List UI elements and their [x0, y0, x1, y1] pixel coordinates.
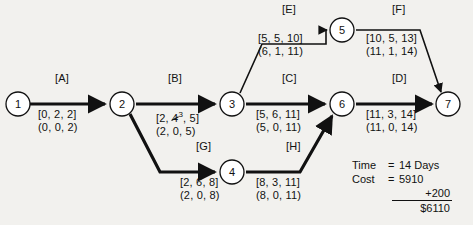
summary-total: $6110 — [392, 201, 452, 215]
activity-b-paren: (2, 0, 5) — [156, 125, 199, 138]
project-summary: Time = 14 Days Cost = 5910 +200 $6110 — [352, 158, 452, 215]
summary-time-row: Time = 14 Days — [352, 158, 452, 172]
activity-d-paren: (11, 0, 14) — [366, 121, 418, 134]
activity-g-paren: (2, 0, 8) — [180, 189, 220, 202]
node-4-label: 4 — [229, 166, 235, 178]
summary-cost-value: 5910 — [399, 172, 423, 186]
activity-h-label: [H] — [286, 140, 301, 152]
node-7-label: 7 — [445, 98, 451, 110]
activity-a-times: [0, 2, 2] (0, 0, 2) — [38, 108, 78, 134]
activity-e-label: [E] — [282, 3, 296, 15]
summary-time-value: 14 Days — [399, 158, 439, 172]
summary-cost-label: Cost — [352, 172, 388, 186]
activity-b-bracket-prefix: [2, — [156, 112, 172, 124]
node-2-label: 2 — [119, 98, 125, 110]
summary-time-label: Time — [352, 158, 388, 172]
activity-b-original-duration: 4 — [172, 112, 178, 125]
activity-f-times: [10, 5, 13] (11, 1, 14) — [366, 32, 418, 58]
activity-f-bracket: [10, 5, 13] — [366, 32, 418, 45]
activity-b-bracket: [2, 43, 5] — [156, 108, 199, 125]
activity-e-bracket: [5, 5, 10] — [258, 32, 303, 45]
activity-c-label: [C] — [282, 72, 297, 84]
summary-cost-row: Cost = 5910 — [352, 172, 452, 186]
activity-a-bracket: [0, 2, 2] — [38, 108, 78, 121]
activity-c-bracket: [5, 6, 11] — [256, 108, 301, 121]
activity-c-paren: (5, 0, 11) — [256, 121, 301, 134]
activity-h-times: [8, 3, 11] (8, 0, 11) — [256, 176, 301, 202]
summary-cost-equals: = — [388, 172, 399, 186]
activity-g-bracket: [2, 6, 8] — [180, 176, 220, 189]
activity-a-label: [A] — [55, 72, 69, 84]
node-1-label: 1 — [15, 98, 21, 110]
activity-d-times: [11, 3, 14] (11, 0, 14) — [366, 108, 418, 134]
node-6-label: 6 — [339, 98, 345, 110]
activity-e-paren: (6, 1, 11) — [258, 45, 303, 58]
activity-b-bracket-suffix: , 5] — [183, 112, 199, 124]
activity-a-paren: (0, 0, 2) — [38, 121, 78, 134]
activity-b-label: [B] — [168, 72, 182, 84]
activity-d-label: [D] — [392, 72, 407, 84]
activity-g-times: [2, 6, 8] (2, 0, 8) — [180, 176, 220, 202]
activity-g-label: [G] — [196, 140, 211, 152]
activity-d-bracket: [11, 3, 14] — [366, 108, 418, 121]
activity-b-times: [2, 43, 5] (2, 0, 5) — [156, 108, 199, 138]
summary-time-equals: = — [388, 158, 399, 172]
summary-addition: +200 — [392, 186, 452, 201]
node-3-label: 3 — [229, 98, 235, 110]
activity-f-paren: (11, 1, 14) — [366, 45, 418, 58]
node-5-label: 5 — [339, 24, 345, 36]
activity-h-paren: (8, 0, 11) — [256, 189, 301, 202]
activity-e-times: [5, 5, 10] (6, 1, 11) — [258, 32, 303, 58]
activity-c-times: [5, 6, 11] (5, 0, 11) — [256, 108, 301, 134]
activity-f-label: [F] — [392, 3, 405, 15]
activity-h-bracket: [8, 3, 11] — [256, 176, 301, 189]
